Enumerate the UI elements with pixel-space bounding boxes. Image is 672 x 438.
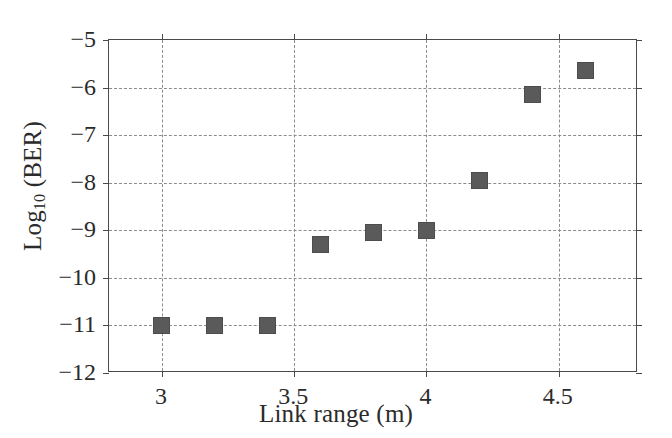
y-tick-mark-right [636,135,642,136]
y-tick-mark [103,135,109,136]
data-point-marker [418,222,435,239]
x-tick-mark [294,371,295,377]
y-tick-mark-right [636,325,642,326]
x-tick-mark [426,371,427,377]
data-point-marker [259,317,276,334]
data-point-marker [312,236,329,253]
y-tick-label: −11 [36,312,96,336]
y-tick-mark-right [636,373,642,374]
data-point-marker [471,172,488,189]
y-tick-mark-right [636,40,642,41]
gridline-horizontal [109,88,636,89]
x-tick-mark-top [426,34,427,40]
y-tick-mark-right [636,230,642,231]
y-tick-mark [103,183,109,184]
x-tick-mark-top [294,34,295,40]
gridline-horizontal [109,183,636,184]
gridline-vertical [426,40,427,371]
y-tick-mark [103,325,109,326]
data-point-marker [365,224,382,241]
y-tick-mark [103,278,109,279]
data-point-marker [206,317,223,334]
data-point-marker [577,62,594,79]
y-tick-mark-right [636,278,642,279]
gridline-horizontal [109,278,636,279]
x-axis-title: Link range (m) [0,400,672,428]
y-axis-title-base: Log [19,210,46,251]
gridline-horizontal [109,325,636,326]
gridline-horizontal [109,135,636,136]
data-point-marker [524,86,541,103]
y-tick-mark [103,40,109,41]
y-tick-mark-right [636,183,642,184]
y-tick-mark-right [636,88,642,89]
gridline-vertical [559,40,560,371]
data-point-marker [153,317,170,334]
x-tick-mark-top [162,34,163,40]
y-tick-mark [103,230,109,231]
x-tick-mark [162,371,163,377]
y-tick-label: −5 [36,27,96,51]
y-tick-label: −12 [36,360,96,384]
plot-area [108,39,637,372]
y-tick-mark [103,88,109,89]
gridline-vertical [294,40,295,371]
y-tick-mark [103,373,109,374]
x-tick-mark [559,371,560,377]
y-axis-title-rest: (BER) [19,121,46,194]
y-axis-title: Log10 (BER) [19,56,47,316]
chart-figure: −5−6−7−8−9−10−11−12 33.544.5 Log10 (BER)… [0,0,672,438]
y-axis-title-subscript: 10 [31,194,48,210]
x-tick-mark-top [559,34,560,40]
